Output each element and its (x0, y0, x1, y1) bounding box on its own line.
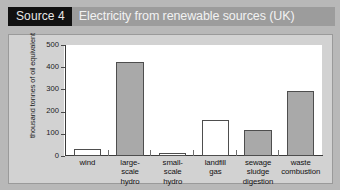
category-label-line: combustion (280, 167, 321, 176)
source-header: Source 4 Electricity from renewable sour… (8, 7, 335, 26)
x-axis-separator (151, 150, 194, 156)
category-label-line: sewage (238, 158, 279, 167)
y-axis-tick-label: 0 (55, 151, 59, 160)
y-axis-tick-label: 300 (46, 84, 59, 93)
x-axis-category-label: landfillgas (194, 158, 237, 186)
category-label-line: large- (110, 158, 151, 167)
bar-slot (109, 45, 152, 156)
y-axis-tick-label: 500 (46, 40, 59, 49)
bar-large-scale-hydro (116, 62, 143, 156)
bar-waste-combustion (287, 91, 314, 156)
category-label-line: waste (280, 158, 321, 167)
category-label-line: digestion (238, 177, 279, 186)
category-label-line: scale (110, 167, 151, 176)
category-label-line: landfill (195, 158, 236, 167)
category-label-line: wind (67, 158, 108, 167)
y-axis-tick-label: 200 (46, 106, 59, 115)
x-axis-separator (109, 150, 152, 156)
category-label-line: small- (152, 158, 193, 167)
bar-series (66, 45, 322, 156)
x-axis-separator (194, 150, 237, 156)
chart-figure: thousand tonnes of oil equivalent 500400… (8, 34, 333, 184)
category-label-line: hydro (110, 177, 151, 186)
x-axis-category-label: wind (66, 158, 109, 186)
screenshot-root: Source 4 Electricity from renewable sour… (0, 0, 340, 190)
category-label-line: scale (152, 167, 193, 176)
x-axis-category-label: large-scalehydro (109, 158, 152, 186)
y-axis-tick-label: 100 (46, 128, 59, 137)
bar-slot (279, 45, 322, 156)
y-axis-tick-mark (61, 156, 65, 157)
category-label-line: gas (195, 167, 236, 176)
category-label-line: sludge (238, 167, 279, 176)
bar-slot (194, 45, 237, 156)
x-axis-category-label: small-scalehydro (151, 158, 194, 186)
bar-slot (66, 45, 109, 156)
y-axis-tick-label: 400 (46, 62, 59, 71)
bar-slot (237, 45, 280, 156)
x-axis-category-label: sewagesludgedigestion (237, 158, 280, 186)
source-number-tag: Source 4 (8, 7, 72, 26)
chart-title: Electricity from renewable sources (UK) (72, 7, 335, 26)
x-axis-separator (237, 150, 280, 156)
x-axis-separator (279, 150, 322, 156)
y-axis-ticks: 5004003002001000 (29, 35, 65, 185)
x-axis-category-label: wastecombustion (279, 158, 322, 186)
x-axis-separators (66, 150, 322, 156)
category-label-line: hydro (152, 177, 193, 186)
x-axis-separator (66, 150, 109, 156)
x-axis-category-labels: windlarge-scalehydrosmall-scalehydroland… (66, 158, 322, 186)
bar-slot (151, 45, 194, 156)
